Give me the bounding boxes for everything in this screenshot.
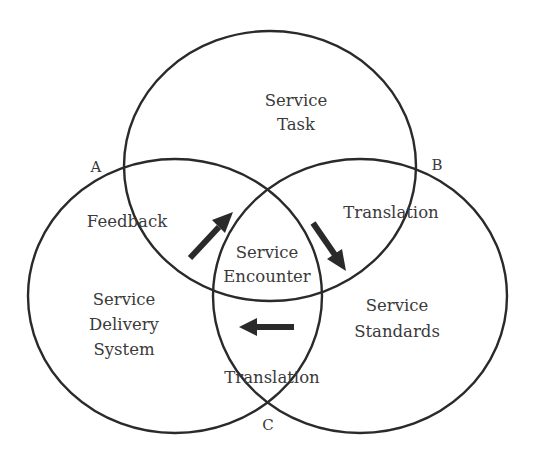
service-standards-circle — [213, 159, 507, 433]
service-task-label-line1: Service — [265, 91, 328, 110]
venn-diagram: Service Task Service Delivery System Ser… — [0, 0, 533, 459]
service-delivery-system-circle — [28, 159, 322, 433]
venn-diagram-svg: Service Task Service Delivery System Ser… — [0, 0, 533, 459]
service-standards-label-line1: Service — [366, 296, 429, 315]
feedback-label: Feedback — [87, 212, 168, 231]
translation-top-right-label: Translation — [343, 203, 439, 222]
point-b-label: B — [431, 156, 442, 174]
service-delivery-system-label-line3: System — [93, 340, 154, 359]
service-encounter-label-line2: Encounter — [223, 267, 310, 286]
feedback-arrow-icon — [190, 212, 233, 258]
service-delivery-system-label-line1: Service — [93, 290, 156, 309]
translation-bottom-label: Translation — [224, 368, 320, 387]
point-a-label: A — [90, 158, 102, 176]
service-delivery-system-label-line2: Delivery — [89, 315, 160, 334]
service-task-label-line2: Task — [277, 115, 316, 134]
service-standards-label-line2: Standards — [354, 322, 440, 341]
translation-arrow-bottom-icon — [239, 318, 294, 336]
service-encounter-label-line1: Service — [236, 243, 299, 262]
point-c-label: C — [262, 416, 273, 434]
